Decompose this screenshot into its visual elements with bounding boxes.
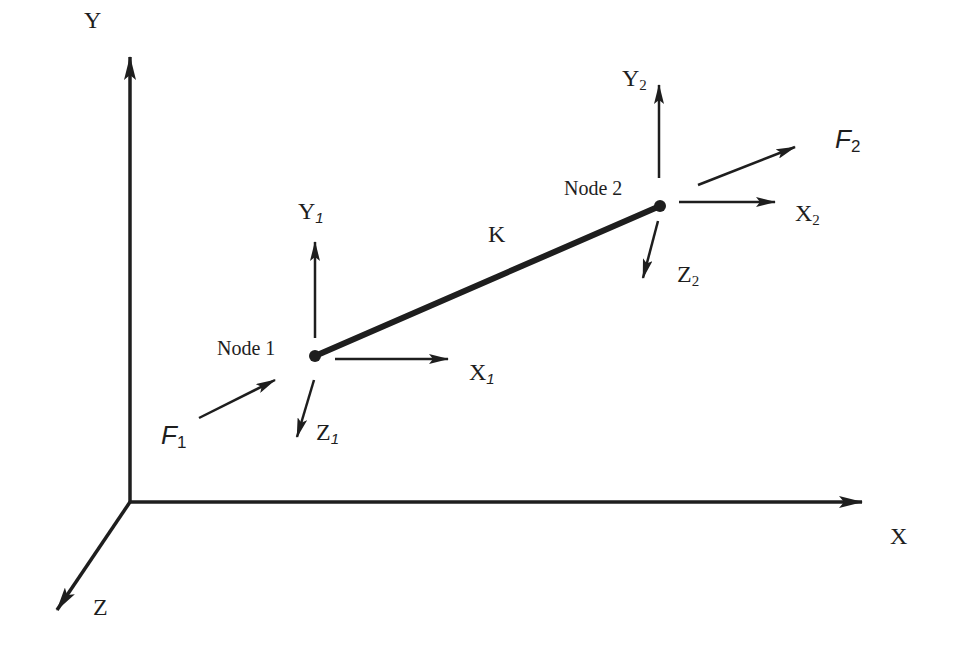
spring-element-diagram: Y X Z K Node 1 Y1 X1 Z1 F1 Node 2 Y2 X2 …: [0, 0, 966, 651]
diagram-graphics: [0, 0, 966, 651]
global-z-label: Z: [93, 595, 108, 619]
node2-x-label: X2: [795, 201, 820, 228]
global-x-label: X: [890, 524, 907, 548]
node2-point: [654, 200, 666, 212]
node2-y-label: Y2: [622, 66, 647, 93]
node1-y-label: Y1: [298, 199, 324, 225]
node2-force-label: F2: [835, 126, 860, 155]
node1-force-arrow: [199, 380, 275, 418]
node1-x-label: X1: [469, 360, 495, 386]
node2-label: Node 2: [564, 178, 622, 198]
node1-z-label: Z1: [316, 420, 339, 446]
node1-label: Node 1: [217, 338, 275, 358]
node2-z-arrow: [643, 221, 658, 278]
node1-point: [309, 350, 321, 362]
element-k-label: K: [488, 222, 505, 246]
node2-force-arrow: [698, 147, 795, 185]
node1-force-label: F1: [161, 422, 186, 451]
node2-z-label: Z2: [677, 262, 699, 289]
node1-z-arrow: [297, 380, 314, 437]
global-y-label: Y: [84, 8, 101, 32]
